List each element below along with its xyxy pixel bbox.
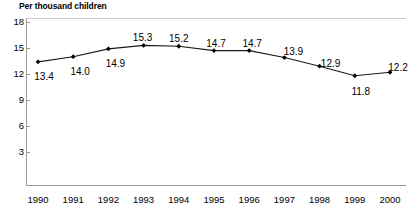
x-axis-tick-label: 1997 xyxy=(274,194,295,205)
x-axis-tick-label: 1993 xyxy=(133,194,154,205)
data-point-label: 13.4 xyxy=(34,71,53,82)
data-point-label: 15.2 xyxy=(169,33,188,44)
data-point-label: 13.9 xyxy=(284,46,303,57)
data-point-label: 12.2 xyxy=(388,62,407,73)
x-axis-tick-label: 1995 xyxy=(203,194,224,205)
data-point-label: 14.7 xyxy=(242,38,261,49)
data-point-marker xyxy=(71,54,76,59)
data-point-marker xyxy=(36,59,41,64)
data-point-marker xyxy=(141,43,146,48)
x-axis-tick-label: 1998 xyxy=(309,194,330,205)
x-axis-tick-label: 1991 xyxy=(63,194,84,205)
data-point-marker xyxy=(176,44,181,49)
data-point-label: 15.3 xyxy=(133,32,152,43)
data-point-label: 11.8 xyxy=(351,86,370,97)
x-axis-tick-label: 1996 xyxy=(239,194,260,205)
data-point-label: 14.7 xyxy=(206,38,225,49)
data-point-marker xyxy=(212,48,217,53)
x-axis-tick-label: 1994 xyxy=(168,194,189,205)
data-point-marker xyxy=(247,48,252,53)
data-point-marker xyxy=(352,73,357,78)
data-point-label: 12.9 xyxy=(321,58,340,69)
data-point-label: 14.0 xyxy=(70,66,89,77)
data-point-marker xyxy=(106,46,111,51)
data-point-label: 14.9 xyxy=(106,58,125,69)
x-axis-tick-label: 1999 xyxy=(344,194,365,205)
x-axis-tick-label: 2000 xyxy=(379,194,400,205)
x-axis-tick-label: 1992 xyxy=(98,194,119,205)
x-axis-tick-label: 1990 xyxy=(27,194,48,205)
